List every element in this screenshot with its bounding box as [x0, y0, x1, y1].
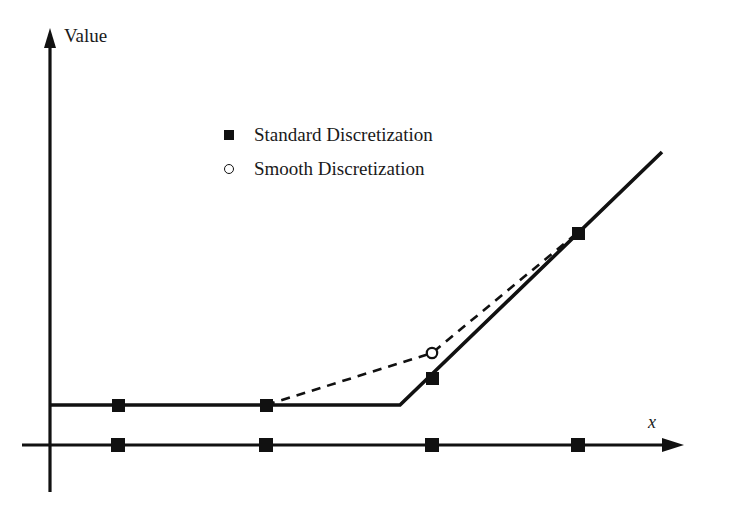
smooth-discretization-marker: [427, 348, 437, 358]
open-circle-icon: [218, 157, 242, 181]
legend-item-smooth-discretization: Smooth Discretization: [218, 152, 548, 186]
standard-discretization-line: [50, 152, 662, 405]
axes-group: [22, 28, 684, 492]
smooth-discretization-series: [266, 229, 582, 405]
x-axis-node-marker: [425, 438, 439, 452]
smooth-discretization-line: [266, 229, 582, 405]
standard-discretization-series: [50, 152, 662, 412]
legend-label-smooth-discretization: Smooth Discretization: [242, 158, 424, 180]
arrow-up-icon: [44, 28, 56, 48]
standard-curve-marker: [572, 227, 585, 240]
legend-item-standard-discretization: Standard Discretization: [218, 118, 548, 152]
filled-square-icon: [218, 123, 242, 147]
x-axis-node-marker: [259, 438, 273, 452]
standard-curve-marker: [112, 399, 125, 412]
x-axis-node-marker: [111, 438, 125, 452]
x-axis-node-marker: [571, 438, 585, 452]
standard-curve-marker: [426, 372, 439, 385]
discretization-figure: Value x Standard Discretization Smooth D…: [0, 0, 754, 530]
standard-curve-marker: [260, 399, 273, 412]
legend-label-standard-discretization: Standard Discretization: [242, 124, 433, 146]
arrow-right-icon: [662, 438, 684, 452]
chart-canvas: [0, 0, 754, 530]
y-axis-label: Value: [64, 26, 107, 45]
x-axis-label: x: [648, 413, 656, 431]
chart-legend: Standard Discretization Smooth Discretiz…: [218, 118, 548, 186]
